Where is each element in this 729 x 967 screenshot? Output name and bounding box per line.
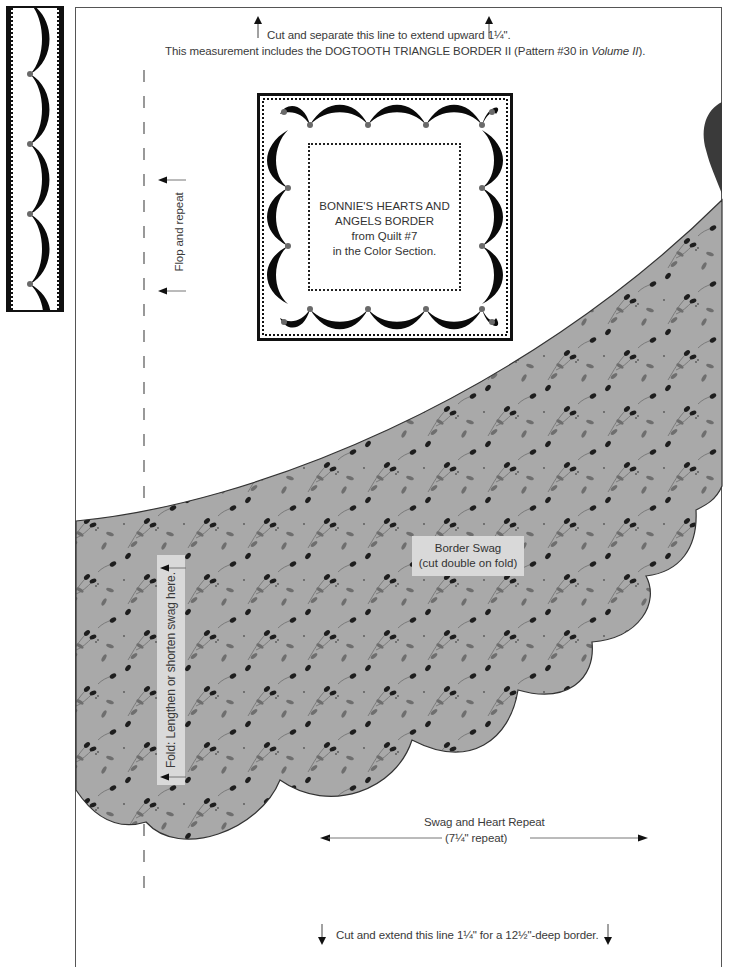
heart-shape bbox=[704, 102, 722, 194]
bottom-cut-instruction: Cut and extend this line 1¼" for a 12½"-… bbox=[336, 929, 599, 941]
swag-label-line-1: Border Swag bbox=[412, 541, 524, 556]
fold-label: Fold: Lengthen or shorten swag here. bbox=[164, 565, 178, 775]
border-swag-label: Border Swag (cut double on fold) bbox=[412, 536, 524, 576]
repeat-label-title: Swag and Heart Repeat bbox=[424, 816, 545, 828]
swag-label-line-2: (cut double on fold) bbox=[412, 556, 524, 571]
down-arrow-right-icon bbox=[603, 924, 613, 946]
down-arrow-left-icon bbox=[317, 924, 327, 946]
repeat-double-arrow-icon bbox=[320, 833, 650, 843]
